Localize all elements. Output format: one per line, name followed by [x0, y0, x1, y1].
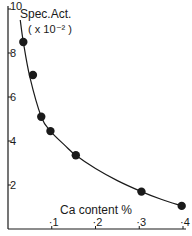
data-point: [72, 151, 80, 159]
y-ticks: 246810: [8, 0, 22, 191]
x-ticks: ·1·2·3·4: [49, 216, 190, 229]
x-tick-label: ·2: [93, 216, 103, 228]
y-axis-scale: ( x 10⁻² ): [28, 23, 72, 35]
y-tick-label: 6: [10, 91, 16, 103]
x-tick-label: ·1: [49, 216, 59, 228]
data-point: [137, 187, 145, 195]
x-tick-label: ·3: [136, 216, 146, 228]
data-point: [37, 113, 45, 121]
y-axis-title: Spec.Act.: [20, 7, 71, 21]
y-tick-label: 2: [10, 179, 16, 191]
chart: 246810 ·1·2·3·4 Spec.Act. ( x 10⁻² ) Ca …: [0, 0, 192, 236]
data-point: [29, 71, 37, 79]
y-tick-label: 4: [10, 135, 16, 147]
data-point: [177, 202, 185, 210]
data-point: [19, 38, 27, 46]
y-tick-label: 8: [10, 47, 16, 59]
x-axis-title: Ca content %: [60, 203, 132, 217]
fitted-curve: [20, 20, 181, 206]
x-tick-label: ·4: [180, 216, 190, 228]
axes: [8, 6, 186, 229]
data-point: [46, 127, 54, 135]
